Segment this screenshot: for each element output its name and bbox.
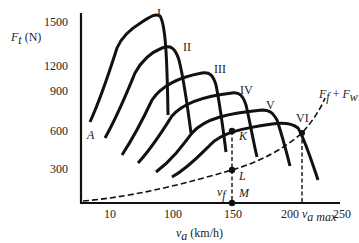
label-K: K (238, 129, 248, 143)
x-tick-10: 10 (104, 207, 116, 221)
label-gear-III: III (214, 62, 226, 76)
label-vf: vf (217, 185, 227, 202)
label-A: A (86, 128, 95, 142)
label-gear-II: II (183, 40, 191, 54)
point-L (229, 167, 235, 173)
point-vmax (299, 130, 305, 136)
label-gear-IV: IV (240, 83, 253, 97)
label-gear-VI: VI (296, 111, 309, 125)
y-tick-1200: 1200 (44, 59, 68, 73)
traction-chart: 1500 1200 900 600 300 Ft (N) 10 100 150 … (0, 0, 359, 243)
x-tick-200: 200 (281, 207, 299, 221)
label-M: M (238, 186, 250, 200)
y-tick-600: 600 (50, 124, 68, 138)
x-tick-150: 150 (224, 207, 242, 221)
label-vmax: va max (302, 207, 337, 224)
label-gear-V: V (266, 98, 275, 112)
y-tick-1500: 1500 (44, 15, 68, 29)
y-tick-300: 300 (50, 162, 68, 176)
label-gear-I: I (157, 6, 161, 20)
curve-gear-I (90, 15, 168, 122)
y-axis-label: Ft (N) (10, 30, 41, 47)
y-tick-900: 900 (50, 84, 68, 98)
x-axis-label: va (km/h) (176, 226, 223, 243)
label-L: L (238, 169, 246, 183)
point-K (229, 128, 235, 134)
curve-gear-II (105, 47, 191, 138)
x-tick-100: 100 (164, 207, 182, 221)
point-M (229, 200, 235, 206)
